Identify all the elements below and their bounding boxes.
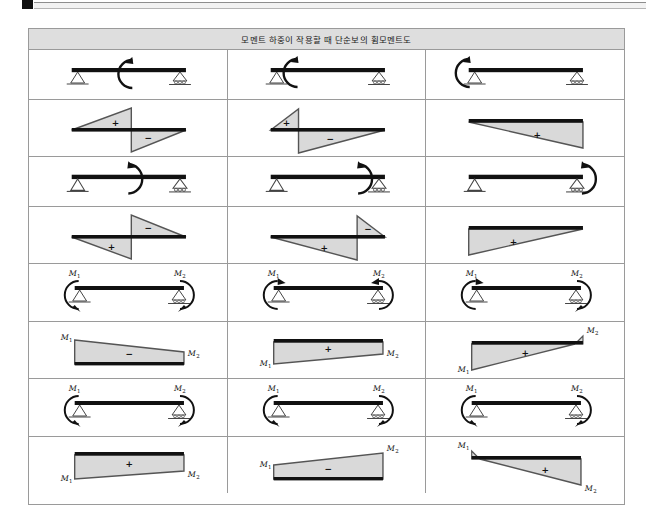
svg-text:+: + bbox=[534, 130, 541, 140]
svg-text:1: 1 bbox=[466, 369, 469, 375]
moment-diagram-triangle-plus: + bbox=[426, 100, 624, 156]
svg-text:2: 2 bbox=[580, 388, 583, 394]
moment-diagram-trapezoid-minus-above: − M 1 M 2 bbox=[228, 437, 426, 493]
beam-diagram-both-moments-cw: M 1 M 2 bbox=[29, 379, 227, 436]
svg-text:1: 1 bbox=[77, 388, 80, 394]
moment-diagram-small-plus-large-minus: + − bbox=[228, 100, 426, 156]
header-rule bbox=[34, 2, 646, 9]
svg-text:1: 1 bbox=[474, 388, 477, 394]
cell-r3c2[interactable] bbox=[228, 157, 427, 206]
beam-diagram-mid-moment-ccw bbox=[29, 157, 227, 206]
moment-diagram-crossing-plus-reverse: + M 1 M 2 bbox=[426, 437, 624, 493]
svg-text:1: 1 bbox=[69, 337, 72, 343]
svg-text:2: 2 bbox=[395, 353, 398, 359]
table-row: M 1 M 2 M 1 M bbox=[29, 264, 624, 322]
table-row: − M 1 M 2 + M 1 M 2 + bbox=[29, 322, 624, 379]
svg-text:+: + bbox=[510, 237, 517, 247]
cell-r6c1[interactable]: − M 1 M 2 bbox=[29, 322, 228, 378]
moment-diagram-triangle-plus-falling: + bbox=[426, 207, 624, 263]
svg-text:+: + bbox=[283, 118, 290, 128]
moment-diagram-plus-minus: + − bbox=[29, 100, 227, 156]
svg-text:+: + bbox=[324, 344, 331, 354]
svg-text:2: 2 bbox=[595, 330, 598, 336]
cell-r4c2[interactable]: − + bbox=[228, 207, 427, 263]
cell-r7c3[interactable]: M 1 M 2 bbox=[426, 379, 624, 436]
svg-text:1: 1 bbox=[77, 273, 80, 279]
cell-r3c1[interactable] bbox=[29, 157, 228, 206]
cell-r7c2[interactable]: M 1 M 2 bbox=[228, 379, 427, 436]
svg-text:+: + bbox=[542, 465, 549, 475]
cell-r6c3[interactable]: + M 1 M 2 bbox=[426, 322, 624, 378]
svg-text:−: − bbox=[144, 223, 151, 233]
cell-r2c2[interactable]: + − bbox=[228, 100, 427, 156]
beam-diagram-mid-moment-cw bbox=[29, 50, 227, 99]
moment-diagram-large-plus-small-minus: − + bbox=[228, 207, 426, 263]
svg-text:+: + bbox=[112, 118, 119, 128]
svg-text:2: 2 bbox=[182, 273, 185, 279]
svg-text:2: 2 bbox=[381, 388, 384, 394]
svg-text:1: 1 bbox=[268, 464, 271, 470]
cell-r2c1[interactable]: + − bbox=[29, 100, 228, 156]
svg-text:1: 1 bbox=[276, 388, 279, 394]
table-row: M 1 M 2 M 1 M bbox=[29, 379, 624, 437]
cell-r2c3[interactable]: + bbox=[426, 100, 624, 156]
svg-text:−: − bbox=[144, 133, 151, 143]
cell-r5c2[interactable]: M 1 M 2 bbox=[228, 264, 427, 321]
cell-r7c1[interactable]: M 1 M 2 bbox=[29, 379, 228, 436]
svg-text:2: 2 bbox=[593, 488, 596, 493]
svg-text:2: 2 bbox=[196, 353, 199, 359]
svg-text:2: 2 bbox=[580, 273, 583, 279]
table-row: − + − + + bbox=[29, 207, 624, 264]
cell-r4c1[interactable]: − + bbox=[29, 207, 228, 263]
beam-diagram-both-moments-ccw-cw: M 1 M 2 bbox=[228, 379, 426, 436]
svg-text:1: 1 bbox=[69, 478, 72, 484]
bending-moment-figure-table: 모멘트 하중이 작용할 때 단순보의 휨모멘트도 bbox=[28, 28, 625, 505]
svg-text:−: − bbox=[324, 464, 331, 474]
beam-diagram-both-moments-cw-ccw: M 1 M 2 bbox=[426, 264, 624, 321]
svg-text:2: 2 bbox=[182, 388, 185, 394]
beam-diagram-right-end-moment-ccw bbox=[426, 157, 624, 206]
table-row bbox=[29, 157, 624, 207]
cell-r5c3[interactable]: M 1 M 2 bbox=[426, 264, 624, 321]
cell-r1c3[interactable] bbox=[426, 50, 624, 99]
svg-text:+: + bbox=[108, 242, 115, 252]
beam-diagram-left-moment-cw bbox=[228, 50, 426, 99]
table-row bbox=[29, 50, 624, 100]
svg-text:1: 1 bbox=[474, 273, 477, 279]
cell-r6c2[interactable]: + M 1 M 2 bbox=[228, 322, 427, 378]
cell-r8c1[interactable]: + M 1 M 2 bbox=[29, 437, 228, 493]
moment-diagram-trapezoid-minus: − M 1 M 2 bbox=[29, 322, 227, 378]
table-row: + M 1 M 2 − M 1 M 2 + bbox=[29, 437, 624, 493]
beam-diagram-both-moments-ccw: M 1 M 2 bbox=[29, 264, 227, 321]
corner-mark bbox=[22, 0, 33, 9]
cell-r1c2[interactable] bbox=[228, 50, 427, 99]
svg-text:+: + bbox=[320, 243, 327, 253]
beam-diagram-left-end-moment-cw bbox=[426, 50, 624, 99]
svg-text:1: 1 bbox=[276, 273, 279, 279]
svg-text:1: 1 bbox=[268, 363, 271, 369]
beam-diagram-both-moments-cw-alt: M 1 M 2 bbox=[426, 379, 624, 436]
svg-text:+: + bbox=[126, 459, 133, 469]
svg-text:2: 2 bbox=[395, 448, 398, 454]
cell-r3c3[interactable] bbox=[426, 157, 624, 206]
svg-text:2: 2 bbox=[196, 474, 199, 480]
svg-text:1: 1 bbox=[466, 445, 469, 451]
svg-text:−: − bbox=[126, 349, 133, 359]
moment-diagram-trapezoid-plus: + M 1 M 2 bbox=[228, 322, 426, 378]
table-row: + − + − + bbox=[29, 100, 624, 157]
beam-diagram-both-moments-mixed: M 1 M 2 bbox=[228, 264, 426, 321]
svg-text:+: + bbox=[522, 348, 529, 358]
svg-text:−: − bbox=[326, 134, 333, 144]
moment-diagram-crossing-plus: + M 1 M 2 bbox=[426, 322, 624, 378]
moment-diagram-trapezoid-plus-below: + M 1 M 2 bbox=[29, 437, 227, 493]
cell-r4c3[interactable]: + bbox=[426, 207, 624, 263]
cell-r8c3[interactable]: + M 1 M 2 bbox=[426, 437, 624, 493]
cell-r1c1[interactable] bbox=[29, 50, 228, 99]
moment-diagram-minus-plus: − + bbox=[29, 207, 227, 263]
cell-r8c2[interactable]: − M 1 M 2 bbox=[228, 437, 427, 493]
svg-text:−: − bbox=[364, 224, 371, 234]
cell-r5c1[interactable]: M 1 M 2 bbox=[29, 264, 228, 321]
svg-text:2: 2 bbox=[381, 273, 384, 279]
table-title: 모멘트 하중이 작용할 때 단순보의 휨모멘트도 bbox=[29, 29, 624, 50]
beam-diagram-right-moment-ccw bbox=[228, 157, 426, 206]
